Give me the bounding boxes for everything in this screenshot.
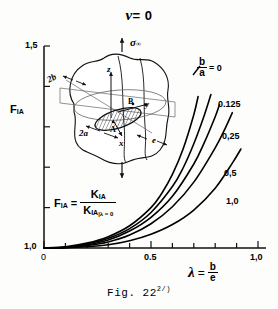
figure-caption-reference: 2/) [157,285,171,293]
figure-caption-text: Fig. 22 [107,287,157,299]
curve-label-ba-025: 0,25 [222,131,240,141]
y-tick-label-bottom: 1,0 [24,241,37,251]
formula-equals: = [71,197,77,209]
curve-label-ba-0125: 0.125 [218,99,241,109]
curve-label-ba-0: b a = 0 [197,57,222,78]
x-axis-label: λ = b e [188,262,218,283]
inset-label-point-b: B [128,97,133,106]
inset-specimen-sketch [60,38,175,178]
inset-label-2a: 2a [79,128,88,138]
x-tick-label-zero: 0 [41,252,46,262]
inset-label-z-axis: z [107,64,111,74]
b-over-a-fraction: b a [197,57,207,78]
equals-sign: = [198,266,205,280]
lambda-symbol: λ [188,264,195,281]
inset-label-e: e [152,135,156,145]
fia-definition-formula: FIA = KIA KIA|λ = 0 [54,188,116,218]
curve-label-ba-0-value: = 0 [209,63,222,73]
inset-label-x-axis: x [119,138,124,148]
x-tick-label-half: 0.5 [144,252,157,262]
formula-numerator: KIA [88,188,109,202]
inset-label-point-a: A [110,125,116,134]
x-tick-label-one: 1,0 [250,252,263,262]
curve-label-ba-05: 0,5 [224,168,237,178]
figure-fia-vs-lambda: ν= 0 [0,0,278,309]
figure-caption: Fig. 222/) [0,285,278,299]
formula-fraction: KIA KIA|λ = 0 [80,188,116,218]
formula-denominator: KIA|λ = 0 [80,202,116,218]
y-axis-label: FIA [10,103,24,115]
inset-label-y-axis: y [145,99,149,109]
formula-lhs: FIA [54,197,68,209]
y-tick-label-top: 1,5 [25,40,38,50]
point-marker-a [112,121,115,124]
curve-label-ba-10: 1,0 [226,196,239,206]
b-over-e-fraction: b e [208,262,218,283]
inset-label-sigma-infinity: σ∞ [130,36,141,48]
